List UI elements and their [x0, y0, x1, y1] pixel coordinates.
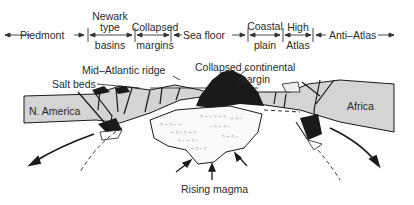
region-sea-floor: Sea floor	[183, 30, 225, 41]
region-margins: margins	[130, 40, 180, 51]
svg-text:⌐ ≈ ∽ ≈ ⌐: ⌐ ≈ ∽ ≈ ⌐	[210, 123, 231, 129]
region-high: High	[282, 22, 314, 33]
label-rising-magma: Rising magma	[181, 184, 248, 195]
label-salt-beds: Salt beds	[52, 79, 96, 90]
label-mid-atlantic-ridge: Mid–Atlantic ridge	[82, 65, 165, 76]
svg-text:≈ ⌐ ∽ ≈ ⌐: ≈ ⌐ ∽ ≈ ⌐	[178, 137, 199, 143]
svg-text:∽ ≈ ⌐ ≈ ∽ ≈: ∽ ≈ ⌐ ≈ ∽ ≈	[170, 129, 196, 135]
region-plain: plain	[245, 40, 285, 51]
svg-text:∽ ≈ ⌐: ∽ ≈ ⌐	[230, 115, 243, 121]
region-newark-basins: basins	[90, 40, 130, 51]
region-coastal: Coastal	[245, 21, 285, 32]
label-collapsed-continental: Collapsed continental	[195, 62, 295, 73]
label-north-america: N. America	[29, 106, 80, 117]
svg-text:≈ ∽ ≈ ⌐ ∽: ≈ ∽ ≈ ⌐ ∽	[160, 121, 182, 127]
svg-text:≈ ∽ ⌐ ≈ ∽ ≈: ≈ ∽ ⌐ ≈ ∽ ≈	[200, 113, 226, 119]
region-atlas: Atlas	[282, 40, 314, 51]
label-africa: Africa	[347, 101, 374, 112]
label-margin: margin	[238, 74, 270, 85]
region-piedmont: Piedmont	[20, 30, 64, 41]
region-newark-type-2: type	[90, 22, 130, 33]
svg-text:∽ ≈ ⌐ ≈: ∽ ≈ ⌐ ≈	[190, 145, 207, 151]
region-collapsed: Collapsed	[130, 22, 180, 33]
svg-text:≈ ∽ ≈ ⌐: ≈ ∽ ≈ ⌐	[222, 133, 239, 139]
region-anti-atlas: Anti–Atlas	[329, 30, 376, 41]
